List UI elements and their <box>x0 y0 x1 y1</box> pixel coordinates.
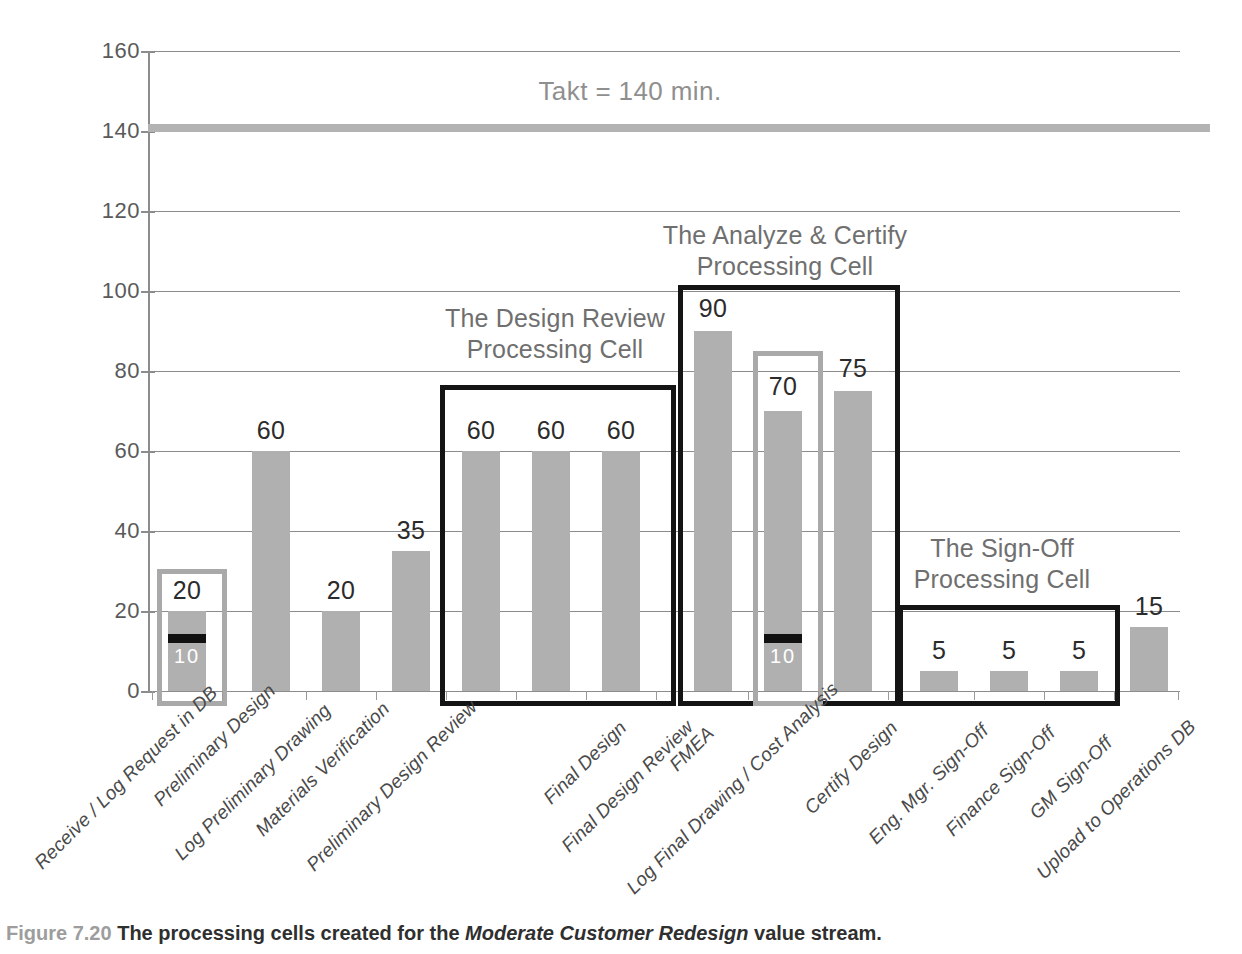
bar-value-final-design: 60 <box>521 416 581 445</box>
bar-eng-mgr-sign-off[interactable] <box>920 671 958 691</box>
bar-finance-sign-off[interactable] <box>990 671 1028 691</box>
bar-value-upload-to-operations-db: 15 <box>1119 592 1179 621</box>
x-tick-mark-5 <box>516 691 517 700</box>
design-review-cell-label: The Design Review Processing Cell <box>430 303 680 366</box>
log-final-drawing-highlight-box <box>753 351 823 706</box>
analyze-certify-cell-line2: Processing Cell <box>660 251 910 282</box>
x-tick-mark-11 <box>974 691 975 700</box>
bar-value-finance-sign-off: 5 <box>979 636 1039 665</box>
x-label-preliminary-design-review: Preliminary Design Review <box>302 696 482 876</box>
y-tick-label-0: 0 <box>94 678 140 704</box>
figure-7-20: 160 140 120 100 80 60 40 20 0 Takt = 140… <box>0 0 1242 954</box>
y-tick-mark-160 <box>141 51 155 53</box>
x-tick-mark-12 <box>1044 691 1045 700</box>
sign-off-cell-label: The Sign-Off Processing Cell <box>882 533 1122 596</box>
y-tick-label-100: 100 <box>94 278 140 304</box>
y-tick-label-20: 20 <box>94 598 140 624</box>
design-review-cell-line2: Processing Cell <box>430 334 680 365</box>
x-tick-mark-6 <box>586 691 587 700</box>
x-label-log-final-drawing: Log Final Drawing / Cost Analysis <box>622 678 843 899</box>
bar-value-log-preliminary-drawing: 20 <box>311 576 371 605</box>
sign-off-cell-line1: The Sign-Off <box>882 533 1122 564</box>
bar-value-preliminary-design-review: 60 <box>451 416 511 445</box>
y-tick-mark-80 <box>141 371 155 373</box>
bar-value-certify-design: 75 <box>823 354 883 383</box>
x-tick-mark-0 <box>152 691 153 700</box>
bar-certify-design[interactable] <box>834 391 872 691</box>
figure-caption-emphasis: Moderate Customer Redesign <box>465 922 748 944</box>
bar-value-receive-log-request: 20 <box>157 576 217 605</box>
y-tick-label-160: 160 <box>94 38 140 64</box>
analyze-certify-cell-line1: The Analyze & Certify <box>660 220 910 251</box>
gridline-120 <box>148 211 1180 212</box>
bar-preliminary-design-review[interactable] <box>462 451 500 691</box>
bar-value-log-final-drawing: 70 <box>753 372 813 401</box>
sign-off-cell-line2: Processing Cell <box>882 564 1122 595</box>
gridline-100 <box>148 291 1180 292</box>
bar-preliminary-design[interactable] <box>252 451 290 691</box>
figure-caption-number: Figure 7.20 <box>6 922 112 944</box>
takt-label: Takt = 140 min. <box>480 76 780 107</box>
y-tick-label-80: 80 <box>94 358 140 384</box>
bar-value-gm-sign-off: 5 <box>1049 636 1109 665</box>
bar-value-eng-mgr-sign-off: 5 <box>909 636 969 665</box>
bar-final-design-review[interactable] <box>602 451 640 691</box>
y-tick-mark-20 <box>141 611 155 613</box>
design-review-cell-line1: The Design Review <box>430 303 680 334</box>
x-tick-mark-2 <box>306 691 307 700</box>
y-tick-label-140: 140 <box>94 118 140 144</box>
bar-gm-sign-off[interactable] <box>1060 671 1098 691</box>
x-label-certify-design: Certify Design <box>800 717 902 819</box>
x-tick-mark-10 <box>888 691 889 700</box>
y-tick-label-40: 40 <box>94 518 140 544</box>
takt-line <box>148 124 1210 132</box>
figure-caption-post: value stream. <box>748 922 881 944</box>
x-tick-mark-4 <box>446 691 447 700</box>
bar-value-materials-verification: 35 <box>381 516 441 545</box>
gridline-80 <box>148 371 1180 372</box>
y-tick-mark-100 <box>141 291 155 293</box>
x-tick-mark-13 <box>1114 691 1115 700</box>
figure-caption: Figure 7.20 The processing cells created… <box>6 922 1206 945</box>
y-tick-mark-40 <box>141 531 155 533</box>
y-tick-mark-120 <box>141 211 155 213</box>
bar-value-fmea: 90 <box>683 294 743 323</box>
analyze-certify-cell-label: The Analyze & Certify Processing Cell <box>660 220 910 283</box>
bar-materials-verification[interactable] <box>392 551 430 691</box>
bar-final-design[interactable] <box>532 451 570 691</box>
y-tick-mark-60 <box>141 451 155 453</box>
y-tick-label-120: 120 <box>94 198 140 224</box>
y-tick-label-60: 60 <box>94 438 140 464</box>
gridline-160 <box>148 51 1180 52</box>
figure-caption-pre: The processing cells created for the <box>117 922 465 944</box>
x-tick-mark-14 <box>1178 691 1179 700</box>
bar-value-final-design-review: 60 <box>591 416 651 445</box>
x-tick-mark-7 <box>656 691 657 700</box>
x-tick-mark-8 <box>748 691 749 700</box>
x-tick-mark-1 <box>222 691 223 700</box>
bar-fmea[interactable] <box>694 331 732 691</box>
bar-log-preliminary-drawing[interactable] <box>322 611 360 691</box>
bar-upload-to-operations-db[interactable] <box>1130 627 1168 691</box>
bar-value-preliminary-design: 60 <box>241 416 301 445</box>
